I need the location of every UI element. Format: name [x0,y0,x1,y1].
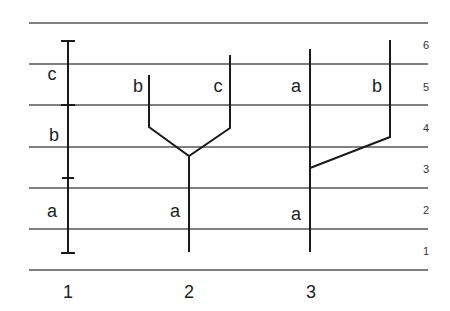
col2-label-a: a [170,202,180,220]
level-6: 6 [423,40,429,51]
column-3-lineage [310,40,390,252]
diagram-canvas [0,0,450,311]
level-1: 1 [423,246,429,257]
level-5: 5 [423,82,429,93]
col3-label-a-upper: a [291,77,301,95]
col1-label-b: b [49,126,59,144]
col1-label-c: c [48,65,57,83]
col1-label-a: a [47,202,57,220]
col2-label-c: c [214,77,223,95]
column-2-label: 2 [184,283,194,301]
column-1-label: 1 [63,283,73,301]
column-3-label: 3 [306,283,316,301]
level-3: 3 [423,164,429,175]
level-2: 2 [423,205,429,216]
col2-label-b: b [133,77,143,95]
level-4: 4 [423,123,429,134]
col3-label-a-lower: a [291,205,301,223]
col3-label-b: b [372,77,382,95]
